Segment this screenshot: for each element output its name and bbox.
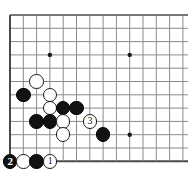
stone-move-number: 3 [88,116,93,126]
stone-black[interactable] [96,127,111,142]
stone-white[interactable] [43,88,58,103]
stone-black[interactable] [29,114,44,129]
stone-white[interactable] [29,74,44,89]
stone-layer: 321 [0,0,188,175]
stone-move-number: 2 [8,156,13,167]
stone-black[interactable] [43,114,58,129]
stone-black[interactable] [16,88,31,103]
stone-white[interactable] [56,127,71,142]
stone-white-move-1[interactable]: 1 [43,154,58,169]
stone-move-number: 1 [48,156,53,166]
stone-black[interactable] [29,154,44,169]
stone-white-move-3[interactable]: 3 [83,114,98,129]
go-board-diagram: 321 [0,0,188,175]
stone-black[interactable] [69,101,84,116]
